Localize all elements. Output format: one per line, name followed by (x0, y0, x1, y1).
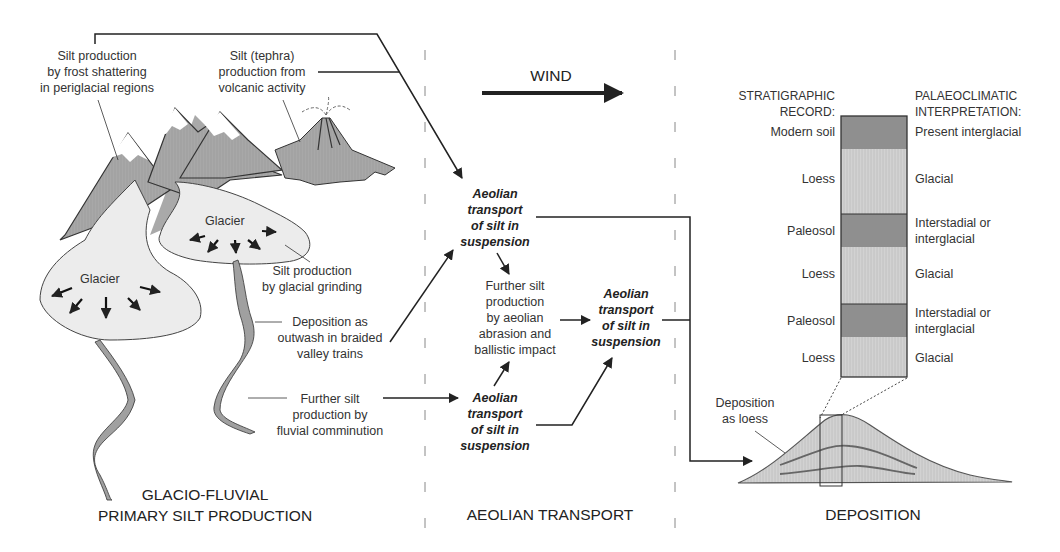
svg-text:by aeolian: by aeolian (487, 311, 544, 325)
svg-text:suspension: suspension (591, 335, 661, 349)
svg-text:as loess: as loess (722, 412, 768, 426)
svg-text:volcanic activity: volcanic activity (219, 81, 307, 95)
svg-text:production by: production by (292, 408, 368, 422)
svg-text:production from: production from (219, 65, 306, 79)
right-section-title: DEPOSITION (825, 506, 921, 523)
svg-text:by frost shattering: by frost shattering (47, 65, 146, 79)
svg-text:Interstadial or: Interstadial or (915, 216, 991, 230)
svg-text:of silt in: of silt in (471, 423, 519, 437)
process-arrows (383, 217, 752, 461)
svg-text:Glacial: Glacial (915, 267, 953, 281)
zoom-line-right (843, 378, 907, 414)
fluvial-comminution-label: Further silt production by fluvial commi… (248, 392, 383, 438)
glacier-right: Glacier (159, 182, 310, 264)
svg-text:RECORD:: RECORD: (780, 105, 835, 119)
river-right (214, 260, 255, 434)
svg-text:Further silt: Further silt (300, 392, 360, 406)
left-section-title-line2: PRIMARY SILT PRODUCTION (98, 507, 312, 524)
svg-text:of silt in: of silt in (602, 319, 650, 333)
svg-text:Present interglacial: Present interglacial (915, 125, 1021, 139)
svg-text:Interstadial or: Interstadial or (915, 306, 991, 320)
svg-text:Glacial: Glacial (915, 172, 953, 186)
svg-text:transport: transport (468, 407, 524, 421)
aeolian-transport-bottom: Aeolian transport of silt in suspension (460, 391, 530, 453)
svg-text:Loess: Loess (802, 172, 835, 186)
left-section-title-line1: GLACIO-FLUVIAL (142, 486, 269, 503)
svg-text:Silt (tephra): Silt (tephra) (230, 49, 295, 63)
outwash-label: Deposition as outwash in braided valley … (255, 315, 383, 361)
svg-text:STRATIGRAPHIC: STRATIGRAPHIC (739, 89, 836, 103)
svg-text:transport: transport (468, 203, 524, 217)
svg-text:Deposition: Deposition (715, 396, 774, 410)
svg-text:Silt production: Silt production (272, 264, 351, 278)
svg-text:Loess: Loess (802, 351, 835, 365)
svg-text:transport: transport (599, 303, 655, 317)
svg-text:valley trains: valley trains (297, 347, 363, 361)
palaeoclimatic-header: PALAEOCLIMATIC INTERPRETATION: (915, 89, 1021, 119)
svg-text:Modern soil: Modern soil (770, 125, 835, 139)
aeolian-abrasion-label: Further silt production by aeolian abras… (474, 279, 556, 357)
svg-text:production: production (486, 295, 544, 309)
svg-text:in periglacial regions: in periglacial regions (40, 81, 154, 95)
svg-text:of silt in: of silt in (471, 219, 519, 233)
svg-text:Loess: Loess (802, 267, 835, 281)
svg-text:PALAEOCLIMATIC: PALAEOCLIMATIC (915, 89, 1018, 103)
svg-text:Aeolian: Aeolian (602, 287, 649, 301)
svg-text:Aeolian: Aeolian (471, 391, 518, 405)
svg-text:Further silt: Further silt (485, 279, 545, 293)
svg-text:Deposition as: Deposition as (292, 315, 368, 329)
svg-text:outwash in braided: outwash in braided (278, 331, 383, 345)
svg-text:by glacial grinding: by glacial grinding (262, 280, 362, 294)
deposition-loess-label: Deposition as loess (715, 396, 785, 453)
svg-text:abrasion and: abrasion and (479, 327, 551, 341)
zoom-line-left (820, 378, 841, 418)
svg-text:Paleosol: Paleosol (787, 224, 835, 238)
svg-text:Silt production: Silt production (57, 49, 136, 63)
wind-label: WIND (530, 67, 571, 84)
glacier-right-label: Glacier (205, 214, 245, 228)
svg-text:suspension: suspension (460, 235, 530, 249)
svg-text:suspension: suspension (460, 439, 530, 453)
loess-process-diagram: Glacier Glacier Silt production by frost… (0, 0, 1060, 552)
svg-text:INTERPRETATION:: INTERPRETATION: (915, 105, 1021, 119)
aeolian-transport-top: Aeolian transport of silt in suspension (460, 187, 530, 249)
stratigraphic-header: STRATIGRAPHIC RECORD: (739, 89, 836, 119)
svg-text:Aeolian: Aeolian (471, 187, 518, 201)
svg-text:Paleosol: Paleosol (787, 314, 835, 328)
volcano-illustration (275, 96, 395, 185)
svg-text:interglacial: interglacial (915, 232, 975, 246)
river-left (93, 340, 135, 500)
stratigraphic-column (841, 116, 907, 377)
aeolian-transport-right: Aeolian transport of silt in suspension (591, 287, 661, 349)
svg-text:fluvial comminution: fluvial comminution (277, 424, 383, 438)
glacier-left-label: Glacier (80, 272, 120, 286)
frost-shattering-label: Silt production by frost shattering in p… (40, 49, 154, 160)
svg-text:Glacial: Glacial (915, 351, 953, 365)
loess-deposit-mound (738, 415, 1012, 486)
svg-text:ballistic impact: ballistic impact (474, 343, 556, 357)
middle-section-title: AEOLIAN TRANSPORT (467, 506, 634, 523)
svg-text:interglacial: interglacial (915, 322, 975, 336)
